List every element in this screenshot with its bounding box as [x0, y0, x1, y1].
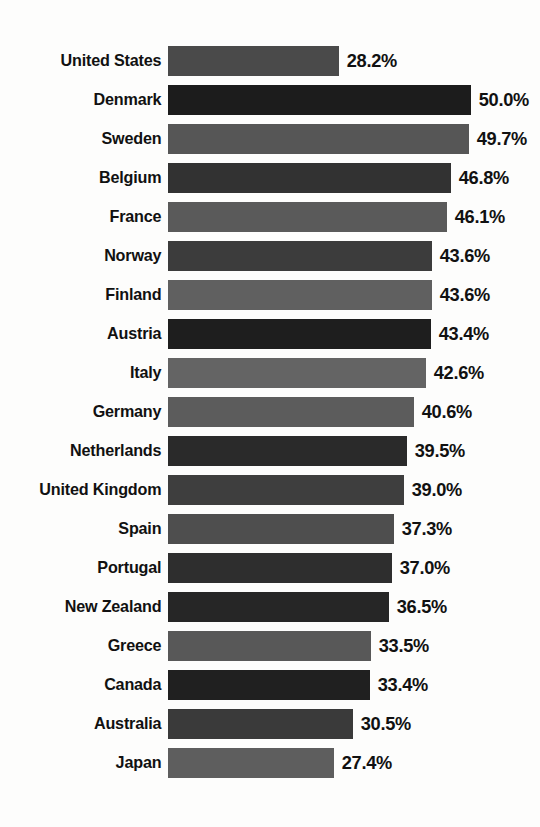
bar-value-label: 37.0% — [392, 553, 450, 583]
bar — [168, 46, 339, 76]
bar-chart-row: Finland43.6% — [0, 280, 540, 310]
bar-track: 43.6% — [168, 241, 540, 271]
bar-chart-row: New Zealand36.5% — [0, 592, 540, 622]
bar-chart-row: Portugal37.0% — [0, 553, 540, 583]
bar-category-label: Norway — [8, 241, 168, 271]
bar-chart-row: Sweden49.7% — [0, 124, 540, 154]
bar-category-label: Australia — [8, 709, 168, 739]
bar-category-label: Sweden — [8, 124, 168, 154]
bar-category-label: Greece — [8, 631, 168, 661]
bar-track: 33.5% — [168, 631, 540, 661]
bar-track: 37.0% — [168, 553, 540, 583]
bar — [168, 553, 392, 583]
bar-category-label: Austria — [8, 319, 168, 349]
bar-chart-row: Italy42.6% — [0, 358, 540, 388]
bar-chart-row: France46.1% — [0, 202, 540, 232]
bar-category-label: United Kingdom — [8, 475, 168, 505]
bar — [168, 241, 432, 271]
bar-chart-row: Spain37.3% — [0, 514, 540, 544]
bar-value-label: 46.8% — [451, 163, 509, 193]
bar-chart-row: Netherlands39.5% — [0, 436, 540, 466]
bar — [168, 709, 353, 739]
bar-chart: United States28.2%Denmark50.0%Sweden49.7… — [0, 0, 540, 827]
bar-value-label: 39.0% — [404, 475, 462, 505]
bar-track: 28.2% — [168, 46, 540, 76]
bar-value-label: 42.6% — [426, 358, 484, 388]
bar-value-label: 39.5% — [407, 436, 465, 466]
bar-chart-row: Germany40.6% — [0, 397, 540, 427]
bar-value-label: 50.0% — [471, 85, 529, 115]
bar-track: 46.1% — [168, 202, 540, 232]
bar-chart-row: Japan27.4% — [0, 748, 540, 778]
bar-value-label: 40.6% — [414, 397, 472, 427]
bar-category-label: Germany — [8, 397, 168, 427]
bar-track: 39.0% — [168, 475, 540, 505]
bar-category-label: Spain — [8, 514, 168, 544]
bar-value-label: 43.6% — [432, 241, 490, 271]
bar-track: 36.5% — [168, 592, 540, 622]
bar — [168, 670, 370, 700]
bar-track: 43.6% — [168, 280, 540, 310]
bar-category-label: Belgium — [8, 163, 168, 193]
bar-category-label: Netherlands — [8, 436, 168, 466]
bar-chart-rows: United States28.2%Denmark50.0%Sweden49.7… — [0, 46, 540, 787]
bar-value-label: 37.3% — [394, 514, 452, 544]
bar — [168, 358, 426, 388]
bar-category-label: Canada — [8, 670, 168, 700]
bar-track: 33.4% — [168, 670, 540, 700]
bar-value-label: 43.6% — [432, 280, 490, 310]
bar-value-label: 30.5% — [353, 709, 411, 739]
bar-chart-row: Canada33.4% — [0, 670, 540, 700]
bar-track: 27.4% — [168, 748, 540, 778]
bar-category-label: United States — [8, 46, 168, 76]
bar-category-label: France — [8, 202, 168, 232]
bar-value-label: 27.4% — [334, 748, 392, 778]
bar — [168, 280, 432, 310]
bar — [168, 397, 414, 427]
bar-chart-row: Austria43.4% — [0, 319, 540, 349]
bar-track: 50.0% — [168, 85, 540, 115]
bar-value-label: 46.1% — [447, 202, 505, 232]
bar — [168, 748, 334, 778]
bar — [168, 202, 447, 232]
bar-category-label: Portugal — [8, 553, 168, 583]
bar-category-label: Italy — [8, 358, 168, 388]
bar — [168, 85, 471, 115]
bar — [168, 319, 431, 349]
bar-chart-row: United Kingdom39.0% — [0, 475, 540, 505]
bar-value-label: 36.5% — [389, 592, 447, 622]
bar-category-label: Finland — [8, 280, 168, 310]
bar-category-label: Japan — [8, 748, 168, 778]
bar — [168, 124, 469, 154]
bar-category-label: Denmark — [8, 85, 168, 115]
bar-chart-row: Greece33.5% — [0, 631, 540, 661]
bar-track: 30.5% — [168, 709, 540, 739]
bar-chart-row: Norway43.6% — [0, 241, 540, 271]
bar-chart-row: Denmark50.0% — [0, 85, 540, 115]
bar-chart-row: United States28.2% — [0, 46, 540, 76]
bar-value-label: 49.7% — [469, 124, 527, 154]
bar-category-label: New Zealand — [8, 592, 168, 622]
bar-track: 46.8% — [168, 163, 540, 193]
bar-track: 42.6% — [168, 358, 540, 388]
bar-chart-row: Belgium46.8% — [0, 163, 540, 193]
bar-track: 40.6% — [168, 397, 540, 427]
bar — [168, 592, 389, 622]
bar-value-label: 33.4% — [370, 670, 428, 700]
bar-value-label: 33.5% — [371, 631, 429, 661]
bar-track: 39.5% — [168, 436, 540, 466]
bar-chart-row: Australia30.5% — [0, 709, 540, 739]
bar — [168, 163, 451, 193]
bar-track: 49.7% — [168, 124, 540, 154]
bar — [168, 436, 407, 466]
bar-track: 37.3% — [168, 514, 540, 544]
bar-value-label: 43.4% — [431, 319, 489, 349]
bar-track: 43.4% — [168, 319, 540, 349]
bar-value-label: 28.2% — [339, 46, 397, 76]
bar — [168, 631, 371, 661]
bar — [168, 514, 394, 544]
bar — [168, 475, 404, 505]
